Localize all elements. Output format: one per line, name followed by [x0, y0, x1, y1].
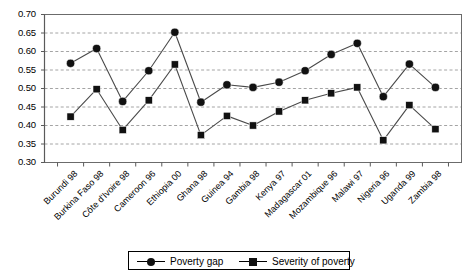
data-point-poverty-gap: [223, 81, 231, 89]
y-axis-tick-label: 0.35: [6, 139, 36, 149]
data-point-poverty-gap: [171, 28, 179, 36]
data-point-poverty-gap: [353, 39, 361, 47]
y-axis-tick-label: 0.45: [6, 102, 36, 112]
y-axis-tick-label: 0.70: [6, 9, 36, 19]
data-point-severity-of-poverty: [328, 90, 335, 97]
data-point-severity-of-poverty: [302, 97, 309, 104]
data-point-severity-of-poverty: [67, 113, 74, 120]
data-point-severity-of-poverty: [93, 86, 100, 93]
data-point-poverty-gap: [249, 83, 257, 91]
data-point-severity-of-poverty: [354, 84, 361, 91]
data-point-severity-of-poverty: [145, 97, 152, 104]
y-axis-tick-label: 0.65: [6, 28, 36, 38]
y-axis-tick-label: 0.55: [6, 65, 36, 75]
data-point-poverty-gap: [301, 67, 309, 75]
data-point-poverty-gap: [379, 93, 387, 101]
legend-item-severity-of-poverty: Severity of poverty: [239, 256, 355, 267]
legend-circle-marker-icon: [137, 257, 165, 267]
data-point-poverty-gap: [275, 78, 283, 86]
data-point-severity-of-poverty: [249, 122, 256, 129]
data-point-severity-of-poverty: [171, 61, 178, 68]
data-point-severity-of-poverty: [432, 126, 439, 133]
data-point-severity-of-poverty: [406, 102, 413, 109]
poverty-gap-severity-chart: 0.300.350.400.450.500.550.600.650.70 Bur…: [0, 0, 473, 280]
y-axis-tick-label: 0.40: [6, 120, 36, 130]
y-axis-tick-label: 0.50: [6, 83, 36, 93]
data-point-poverty-gap: [405, 60, 413, 68]
legend-label-poverty-gap: Poverty gap: [170, 256, 223, 267]
legend-label-severity-of-poverty: Severity of poverty: [272, 256, 355, 267]
data-point-poverty-gap: [197, 98, 205, 106]
data-point-severity-of-poverty: [380, 137, 387, 144]
y-axis-tick-label: 0.30: [6, 157, 36, 167]
legend-square-marker-icon: [239, 257, 267, 267]
chart-legend: Poverty gap Severity of poverty: [128, 251, 350, 270]
data-point-severity-of-poverty: [197, 132, 204, 139]
y-axis-tick-label: 0.60: [6, 46, 36, 56]
data-point-severity-of-poverty: [223, 112, 230, 119]
data-point-poverty-gap: [145, 67, 153, 75]
data-point-poverty-gap: [93, 44, 101, 52]
data-point-poverty-gap: [119, 97, 127, 105]
data-point-poverty-gap: [431, 83, 439, 91]
data-point-poverty-gap: [66, 59, 74, 67]
legend-item-poverty-gap: Poverty gap: [137, 256, 223, 267]
data-point-severity-of-poverty: [119, 126, 126, 133]
data-point-severity-of-poverty: [275, 108, 282, 115]
data-point-poverty-gap: [327, 50, 335, 58]
